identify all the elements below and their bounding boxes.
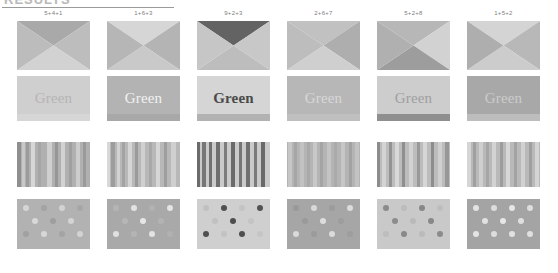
dot	[419, 205, 426, 212]
stripe	[479, 142, 483, 187]
dot	[320, 218, 326, 224]
dot	[383, 231, 390, 238]
dot	[158, 218, 165, 225]
dot	[32, 218, 38, 224]
stripe	[327, 142, 331, 187]
stripe	[128, 142, 132, 187]
stripes-tile[interactable]	[197, 142, 270, 187]
dot	[131, 231, 138, 238]
dot	[482, 218, 489, 225]
dot	[221, 231, 228, 238]
x-pattern-tile[interactable]	[467, 21, 540, 70]
dot	[338, 218, 344, 224]
dot	[23, 205, 29, 211]
tile-footer-band	[17, 114, 90, 121]
stripe	[111, 142, 115, 187]
dots-tile[interactable]	[17, 199, 90, 249]
stripe	[506, 142, 510, 187]
column-label: 1+5+2	[467, 10, 540, 16]
stripe	[438, 142, 442, 187]
dot	[131, 205, 138, 212]
dot	[59, 231, 65, 237]
dot	[401, 231, 408, 238]
stripe	[300, 142, 304, 187]
stripe	[417, 142, 420, 187]
stripe	[313, 142, 317, 187]
x-pattern-tile[interactable]	[377, 21, 450, 70]
stripe	[22, 142, 25, 187]
green-text-tile[interactable]: Green	[17, 76, 90, 121]
stripe	[76, 142, 80, 187]
stripes-tile[interactable]	[107, 142, 180, 187]
stripes-tile[interactable]	[287, 142, 360, 187]
dot	[239, 205, 246, 212]
x-pattern-tile[interactable]	[107, 21, 180, 70]
green-text-tile[interactable]: Green	[377, 76, 450, 121]
green-text-tile[interactable]: Green	[197, 76, 270, 121]
stripes-tile[interactable]	[17, 142, 90, 187]
stripe	[38, 142, 41, 187]
dot	[518, 218, 525, 225]
dot	[149, 231, 156, 238]
stripe	[135, 142, 138, 187]
dot	[509, 231, 516, 238]
stripe	[209, 142, 212, 187]
x-pattern-tile[interactable]	[287, 21, 360, 70]
dot	[491, 205, 498, 212]
stripe	[254, 142, 257, 187]
stripe	[529, 142, 532, 187]
stripes-row	[0, 142, 558, 187]
stripe	[389, 142, 392, 187]
dots-tile[interactable]	[287, 199, 360, 249]
stripe	[467, 142, 471, 187]
stripe	[307, 142, 310, 187]
green-text-tile[interactable]: Green	[467, 76, 540, 121]
stripe	[377, 142, 380, 187]
stripe	[486, 142, 489, 187]
stripe	[349, 142, 352, 187]
stripe	[382, 142, 386, 187]
dot	[329, 231, 335, 237]
green-word: Green	[395, 91, 433, 106]
column-label: 5+4+1	[17, 10, 90, 16]
stripe	[355, 142, 359, 187]
dots-tile[interactable]	[197, 199, 270, 249]
stripe	[31, 142, 35, 187]
green-text-tile[interactable]: Green	[287, 76, 360, 121]
stripe	[122, 142, 125, 187]
stripe	[224, 142, 227, 187]
dot	[293, 205, 299, 211]
stripes-tile[interactable]	[377, 142, 450, 187]
column-label: 5+2+8	[377, 10, 450, 16]
dot	[509, 205, 516, 212]
dot	[122, 218, 129, 225]
dots-tile[interactable]	[467, 199, 540, 249]
stripe	[83, 142, 86, 187]
stripe	[409, 142, 413, 187]
column-label: 2+6+7	[287, 10, 360, 16]
dot	[77, 231, 83, 237]
stripe	[261, 142, 265, 187]
stripe	[320, 142, 323, 187]
stripe	[202, 142, 206, 187]
dots-tile[interactable]	[107, 199, 180, 249]
dot	[527, 231, 534, 238]
stripe	[445, 142, 449, 187]
dot	[437, 205, 444, 212]
green-word: Green	[213, 91, 254, 106]
stripe	[402, 142, 405, 187]
x-pattern-tile[interactable]	[17, 21, 90, 70]
dots-tile[interactable]	[377, 199, 450, 249]
dot	[410, 218, 417, 225]
stripe	[171, 142, 176, 187]
dot	[167, 231, 174, 238]
green-text-tile[interactable]: Green	[107, 76, 180, 121]
dot	[329, 205, 335, 211]
stripe	[156, 142, 160, 187]
x-pattern-tile[interactable]	[197, 21, 270, 70]
dot	[428, 218, 435, 225]
stripes-tile[interactable]	[467, 142, 540, 187]
stripe	[55, 142, 58, 187]
stripe	[164, 142, 167, 187]
column-label: 9+2+3	[197, 10, 270, 16]
